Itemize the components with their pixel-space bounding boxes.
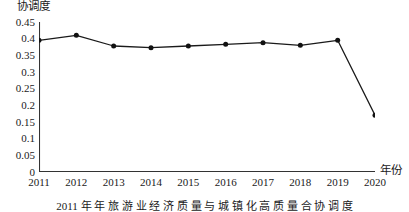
axis-spines	[40, 22, 376, 172]
y-tick-label: 0.05	[16, 150, 35, 161]
x-tick-label: 2019	[327, 176, 349, 188]
x-tick-label: 2011	[28, 176, 50, 188]
y-tick-label: 0.3	[21, 67, 35, 78]
y-tick-label: 0.45	[16, 17, 35, 28]
y-axis-title: 协调度	[17, 0, 51, 13]
y-tick-label: 0.35	[16, 50, 35, 61]
y-tick-label: 0.25	[16, 83, 35, 94]
x-tick-label: 2018	[289, 176, 311, 188]
plot-area	[39, 22, 375, 172]
x-tick-label: 2016	[215, 176, 237, 188]
x-tick-label: 2014	[140, 176, 162, 188]
x-tick-label: 2015	[177, 176, 199, 188]
figure-caption: 2011 年 年 旅 游 业 经 济 质 量 与 城 镇 化 高 质 量 合 协…	[0, 200, 409, 212]
y-tick-label: 0.15	[16, 117, 35, 128]
y-tick-label: 0.2	[21, 100, 35, 111]
y-tick-label: 0.4	[21, 33, 35, 44]
chart-figure: 协调度 年份 00.050.10.150.20.250.30.350.40.45…	[0, 0, 409, 212]
x-tick-label: 2012	[65, 176, 87, 188]
x-tick-label: 2013	[103, 176, 125, 188]
x-axis-title: 年份	[380, 163, 402, 177]
x-tick-label: 2017	[252, 176, 274, 188]
data-series-line	[39, 35, 375, 115]
x-tick-label: 2020	[364, 176, 386, 188]
y-tick-label: 0.1	[21, 133, 35, 144]
